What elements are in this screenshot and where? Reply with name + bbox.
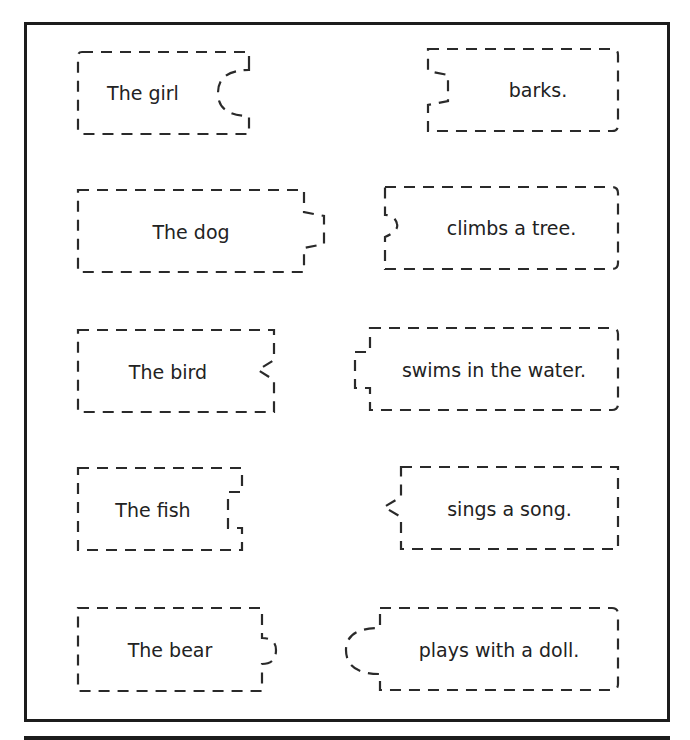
bottom-divider [24,736,670,740]
puzzle-piece-the-fish[interactable]: The fish [78,468,244,551]
puzzle-piece-sings-a-song[interactable]: sings a song. [384,467,618,550]
puzzle-piece-the-girl[interactable]: The girl [78,52,252,134]
puzzle-piece-the-bird[interactable]: The bird [78,330,276,413]
piece-label: The girl [78,52,208,134]
piece-label: The dog [78,190,304,273]
puzzle-piece-climbs-a-tree[interactable]: climbs a tree. [385,187,618,269]
piece-label: The bird [78,330,258,413]
piece-label: swims in the water. [370,328,618,411]
piece-label: plays with a doll. [380,608,618,691]
puzzle-piece-the-bear[interactable]: The bear [78,608,284,692]
piece-label: sings a song. [401,467,618,550]
piece-label: The fish [78,468,228,551]
piece-label: climbs a tree. [405,187,618,269]
puzzle-piece-plays-with-a-doll[interactable]: plays with a doll. [346,608,618,691]
puzzle-piece-the-dog[interactable]: The dog [78,190,328,273]
puzzle-piece-barks[interactable]: barks. [428,49,618,131]
piece-label: The bear [78,608,262,692]
puzzle-piece-swims-in-the-water[interactable]: swims in the water. [355,328,618,411]
piece-label: barks. [458,49,618,131]
clipped-header-text [0,0,690,2]
